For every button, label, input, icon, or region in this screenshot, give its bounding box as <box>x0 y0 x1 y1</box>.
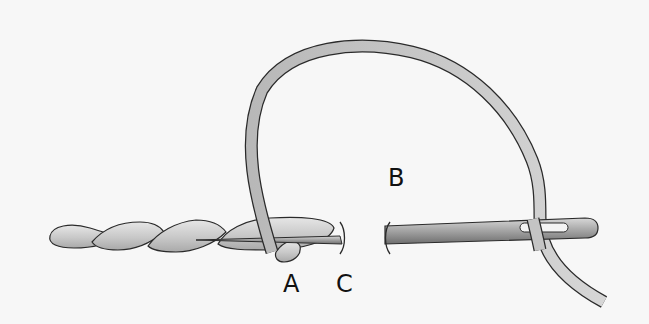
label-a: A <box>283 272 299 296</box>
stitch-illustration <box>0 0 649 324</box>
label-b: B <box>388 166 404 190</box>
stitch-diagram: B A C <box>0 0 649 324</box>
working-thread-loop <box>251 46 604 302</box>
label-c: C <box>336 272 353 296</box>
needle-eye <box>520 223 568 232</box>
needle <box>385 218 598 244</box>
fabric-gap-marks <box>340 222 390 254</box>
